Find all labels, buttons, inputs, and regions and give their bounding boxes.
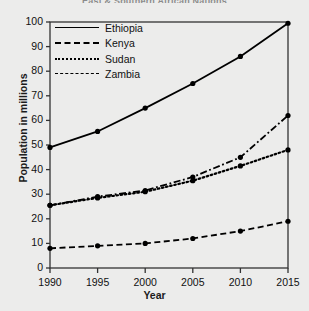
data-point-sudan-1995 [95,195,100,200]
legend-item-zambia: Zambia [55,67,143,83]
data-point-ethiopia-2010 [238,54,243,59]
data-point-zambia-1990 [47,246,52,251]
data-point-ethiopia-2000 [143,106,148,111]
data-point-ethiopia-2005 [190,81,195,86]
data-point-sudan-2015 [285,147,290,152]
plot-area [0,0,309,311]
legend-item-ethiopia: Ethiopia [55,20,143,36]
data-point-ethiopia-2015 [285,21,290,26]
data-point-sudan-2005 [190,178,195,183]
legend-item-sudan: Sudan [55,51,143,67]
data-point-ethiopia-1990 [47,145,52,150]
series-line-kenya [50,115,288,205]
data-point-ethiopia-1995 [95,129,100,134]
data-point-zambia-2015 [285,219,290,224]
data-point-zambia-2010 [238,229,243,234]
legend-label-kenya: Kenya [105,37,135,49]
data-point-kenya-2015 [285,113,290,118]
data-point-sudan-2010 [238,163,243,168]
legend-swatch-kenya [55,37,99,49]
series-line-sudan [50,150,288,205]
legend-swatch-ethiopia [55,22,99,34]
data-point-sudan-1990 [47,203,52,208]
data-point-kenya-2010 [238,155,243,160]
data-point-zambia-2000 [143,241,148,246]
data-point-sudan-2000 [143,189,148,194]
data-point-zambia-2005 [190,236,195,241]
legend-swatch-zambia [55,68,99,80]
data-point-zambia-1995 [95,243,100,248]
legend-label-sudan: Sudan [105,53,135,65]
legend-label-zambia: Zambia [105,68,140,80]
series-line-zambia [50,221,288,248]
chart-legend: Ethiopia Kenya Sudan Zambia [55,20,143,82]
legend-swatch-sudan [55,53,99,65]
legend-label-ethiopia: Ethiopia [105,22,143,34]
population-line-chart: East & Southern African Nations Populati… [0,0,309,311]
legend-item-kenya: Kenya [55,36,143,52]
